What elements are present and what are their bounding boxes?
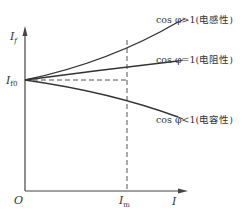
y-axis-label: If [9, 30, 18, 45]
curve-inductive [25, 22, 178, 80]
curve-label-capacitive: cos φ<1(电容性) [156, 114, 233, 125]
curve-label-resistive: cos φ=1(电阻性) [156, 54, 233, 65]
curve-label-inductive: cos φ>1(电感性) [156, 14, 233, 25]
if0-label: If0 [5, 74, 17, 88]
origin-label: O [14, 194, 23, 207]
y-axis-arrow-icon [23, 26, 28, 36]
diagram-canvas: If I O If0 Im cos φ>1(电感性) cos φ=1(电阻性) … [0, 0, 246, 217]
im-label: Im [118, 194, 130, 209]
curve-capacitive [25, 80, 178, 117]
x-axis-label: I [171, 195, 177, 208]
x-axis-arrow-icon [178, 189, 188, 194]
